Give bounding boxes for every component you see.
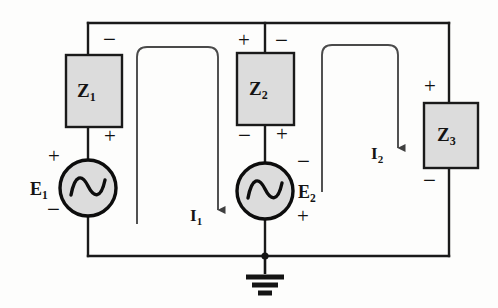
mesh-loop-i2-path — [322, 45, 398, 192]
z3-letter: Z — [437, 124, 450, 145]
mesh-loop-i1-path — [137, 47, 218, 224]
z1-letter: Z — [77, 80, 90, 101]
z2-subscript: 2 — [262, 88, 268, 102]
i1-letter: I — [190, 206, 197, 225]
polarity-z3-top-plus: + — [424, 76, 436, 97]
polarity-z1-bottom-plus: + — [104, 126, 116, 147]
impedance-z3-label: Z3 — [437, 125, 456, 147]
polarity-e2-bottom-plus: + — [297, 206, 309, 227]
polarity-e1-top-plus: + — [48, 146, 60, 167]
i1-subscript: 1 — [197, 215, 203, 227]
polarity-z2-bottom-left-minus: − — [238, 124, 251, 147]
polarity-z2-top-left-plus: + — [238, 30, 250, 51]
e2-letter: E — [298, 182, 310, 202]
z3-subscript: 3 — [450, 134, 456, 148]
mesh-current-i1-label: I1 — [190, 207, 202, 227]
polarity-z2-bottom-right-plus: + — [276, 124, 288, 145]
circuit-diagram: Z1 Z2 Z3 E1 E2 I1 I2 − + + − + − − + − +… — [0, 0, 498, 308]
voltage-source-e1-label: E1 — [30, 180, 48, 202]
voltage-source-e2-label: E2 — [298, 183, 316, 205]
i2-letter: I — [371, 144, 378, 163]
polarity-z2-top-right-minus: − — [275, 29, 288, 52]
z1-subscript: 1 — [90, 90, 96, 104]
i2-subscript: 2 — [378, 153, 384, 165]
impedance-z1-label: Z1 — [77, 81, 96, 103]
mesh-current-i2-label: I2 — [371, 145, 383, 165]
polarity-e2-top-minus: − — [297, 150, 310, 173]
e1-letter: E — [30, 179, 42, 199]
voltage-source-e2-symbol — [237, 163, 293, 219]
impedance-z2-label: Z2 — [249, 79, 268, 101]
polarity-z1-top-minus: − — [103, 28, 116, 51]
polarity-z3-bottom-minus: − — [423, 169, 436, 192]
polarity-e1-bottom-minus: − — [47, 198, 60, 221]
e2-subscript: 2 — [310, 192, 316, 204]
earth-ground-symbol — [246, 256, 284, 293]
voltage-source-e1-symbol — [60, 160, 116, 216]
z2-letter: Z — [249, 78, 262, 99]
